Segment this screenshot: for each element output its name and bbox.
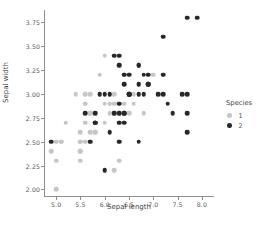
y-tick-mark (41, 142, 44, 143)
data-point (185, 130, 190, 135)
data-point (78, 139, 83, 144)
legend: Species 12 (224, 99, 272, 131)
data-point (136, 82, 141, 87)
data-point (122, 101, 127, 106)
data-point (122, 111, 127, 116)
data-point (93, 111, 98, 116)
data-point (127, 92, 132, 97)
data-point (136, 92, 141, 97)
data-point (73, 92, 78, 97)
data-point (117, 120, 122, 125)
data-point (78, 158, 83, 163)
data-point (83, 101, 88, 106)
plot-area: 2.002.252.502.753.003.253.503.75 5.05.56… (44, 10, 214, 197)
x-tick-mark (153, 197, 154, 200)
data-point (107, 92, 112, 97)
data-point (112, 92, 117, 97)
data-point (185, 15, 190, 20)
data-point (132, 101, 137, 106)
legend-title: Species (224, 99, 272, 107)
legend-items: 12 (224, 111, 272, 130)
y-axis-title: Sepal width (2, 62, 10, 103)
data-point (112, 53, 117, 58)
data-point (117, 53, 122, 58)
data-point (136, 139, 141, 144)
x-tick-mark (80, 197, 81, 200)
data-point (83, 120, 88, 125)
data-point (122, 120, 127, 125)
data-point (122, 73, 127, 78)
data-point (93, 120, 98, 125)
data-point (59, 139, 64, 144)
data-point (93, 130, 98, 135)
data-point (102, 92, 107, 97)
data-point (64, 120, 69, 125)
data-point (146, 82, 151, 87)
data-point (112, 168, 117, 173)
x-tick-mark (129, 197, 130, 200)
data-point (195, 15, 200, 20)
y-tick-label: 2.50 (26, 138, 40, 145)
data-point (98, 73, 103, 78)
data-point (166, 101, 171, 106)
data-point (88, 139, 93, 144)
data-point (141, 92, 146, 97)
data-point (117, 111, 122, 116)
data-point (161, 34, 166, 39)
y-tick-mark (41, 70, 44, 71)
data-point (102, 168, 107, 173)
data-point (78, 149, 83, 154)
data-point (54, 187, 59, 192)
data-point (127, 111, 132, 116)
data-point (88, 92, 93, 97)
y-axis-line (44, 10, 45, 197)
y-tick-label: 2.00 (26, 186, 40, 193)
legend-marker-icon (227, 123, 232, 128)
legend-item[interactable]: 1 (224, 111, 272, 120)
data-point (161, 73, 166, 78)
data-point (127, 73, 132, 78)
y-tick-label: 2.25 (26, 162, 40, 169)
data-point (161, 92, 166, 97)
data-point (136, 63, 141, 68)
scatter-plot-figure: 2.002.252.502.753.003.253.503.75 5.05.56… (0, 0, 275, 233)
x-tick-mark (56, 197, 57, 200)
x-axis-title: Sepal length (44, 203, 214, 211)
y-tick-mark (41, 118, 44, 119)
data-point (83, 111, 88, 116)
data-point (185, 111, 190, 116)
data-point (141, 111, 146, 116)
legend-item-label: 2 (239, 122, 243, 130)
y-tick-label: 3.50 (26, 43, 40, 50)
data-point (141, 73, 146, 78)
y-tick-label: 3.00 (26, 90, 40, 97)
y-tick-mark (41, 189, 44, 190)
data-point (98, 92, 103, 97)
data-point (54, 158, 59, 163)
data-point (117, 63, 122, 68)
data-point (102, 53, 107, 58)
data-point (117, 101, 122, 106)
legend-item-label: 1 (239, 112, 243, 120)
y-tick-mark (41, 94, 44, 95)
data-point (117, 139, 122, 144)
y-tick-label: 3.25 (26, 67, 40, 74)
data-point (185, 92, 190, 97)
y-tick-mark (41, 166, 44, 167)
data-point (146, 73, 151, 78)
data-point (107, 130, 112, 135)
data-point (170, 111, 175, 116)
y-tick-mark (41, 22, 44, 23)
y-tick-mark (41, 46, 44, 47)
data-point (78, 130, 83, 135)
data-point (49, 139, 54, 144)
data-point (151, 73, 156, 78)
x-tick-mark (178, 197, 179, 200)
legend-item[interactable]: 2 (224, 121, 272, 130)
data-point (102, 120, 107, 125)
data-point (122, 82, 127, 87)
y-tick-label: 2.75 (26, 114, 40, 121)
data-point (117, 158, 122, 163)
x-tick-mark (105, 197, 106, 200)
data-point (49, 149, 54, 154)
